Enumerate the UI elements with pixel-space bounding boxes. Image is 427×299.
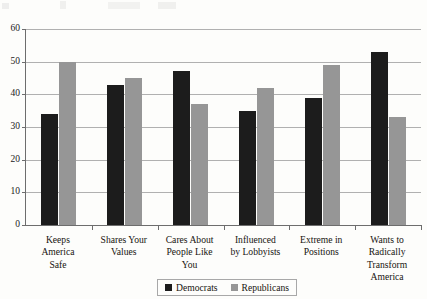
y-axis-tick-label: 10	[11, 188, 21, 198]
bar-group	[107, 29, 142, 225]
bar-democrats[interactable]	[371, 52, 388, 225]
legend-item-republicans[interactable]: Republicans	[231, 283, 289, 293]
gridline	[26, 160, 421, 161]
y-axis-tick-label: 60	[11, 24, 21, 34]
gridline	[26, 29, 421, 30]
bar-republicans[interactable]	[389, 117, 406, 225]
legend-item-democrats[interactable]: Democrats	[165, 283, 218, 293]
y-axis-tick-label: 20	[11, 155, 21, 165]
x-axis-tick	[158, 225, 159, 230]
bar-republicans[interactable]	[323, 65, 340, 225]
x-axis-tick	[289, 225, 290, 230]
bar-republicans[interactable]	[59, 62, 76, 225]
bar-democrats[interactable]	[239, 111, 256, 225]
x-axis-tick	[92, 225, 93, 230]
x-axis-tick	[355, 225, 356, 230]
bar-republicans[interactable]	[191, 104, 208, 225]
gridline	[26, 192, 421, 193]
legend-label: Democrats	[176, 283, 218, 293]
bar-group	[173, 29, 208, 225]
bar-group	[305, 29, 340, 225]
gridline	[26, 127, 421, 128]
x-axis-category-label: Cares About People Like You	[157, 234, 223, 271]
x-axis-category-label: Keeps America Safe	[25, 234, 91, 271]
legend-swatch-icon	[165, 284, 172, 291]
y-axis-tick	[22, 62, 26, 63]
y-axis-tick-label: 50	[11, 57, 21, 67]
y-axis-tick	[22, 192, 26, 193]
chart-legend: DemocratsRepublicans	[157, 279, 297, 296]
y-axis-tick	[22, 160, 26, 161]
x-axis-category-label: Shares Your Values	[91, 234, 157, 259]
y-axis-tick-label: 0	[15, 220, 20, 230]
bar-group	[41, 29, 76, 225]
y-axis-tick	[22, 127, 26, 128]
x-axis-category-label: Extreme in Positions	[288, 234, 354, 259]
y-axis-tick	[22, 29, 26, 30]
bar-republicans[interactable]	[257, 88, 274, 225]
x-axis-tick	[224, 225, 225, 230]
grouped-bar-chart: 0102030405060 Keeps America SafeShares Y…	[0, 0, 427, 299]
plot-area: 0102030405060	[25, 29, 421, 226]
bar-democrats[interactable]	[173, 71, 190, 225]
bar-republicans[interactable]	[125, 78, 142, 225]
y-axis-tick-label: 40	[11, 90, 21, 100]
x-axis-category-label: Wants to Radically Transform America	[354, 234, 420, 284]
gridline	[26, 62, 421, 63]
bar-democrats[interactable]	[305, 98, 322, 225]
bar-democrats[interactable]	[107, 85, 124, 225]
legend-swatch-icon	[231, 284, 238, 291]
bar-group	[371, 29, 406, 225]
bar-democrats[interactable]	[41, 114, 58, 225]
y-axis-tick-label: 30	[11, 122, 21, 132]
y-axis-tick	[22, 225, 26, 226]
x-axis-tick	[421, 225, 422, 230]
x-axis-category-label: Influenced by Lobbyists	[223, 234, 289, 259]
gridline	[26, 94, 421, 95]
bar-group	[239, 29, 274, 225]
legend-label: Republicans	[242, 283, 289, 293]
y-axis-tick	[22, 94, 26, 95]
